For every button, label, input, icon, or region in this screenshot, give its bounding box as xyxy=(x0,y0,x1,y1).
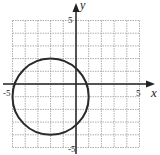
y-min-tick-label: -5 xyxy=(68,144,76,154)
x-min-tick-label: -5 xyxy=(3,88,11,98)
y-max-tick-label: 5 xyxy=(68,15,73,25)
x-max-tick-label: 5 xyxy=(136,88,141,98)
coordinate-graph: x y 5 -5 5 -5 xyxy=(0,0,160,155)
x-axis-label: x xyxy=(150,85,157,100)
y-axis-arrow-icon xyxy=(73,3,80,12)
y-axis-label: y xyxy=(79,0,86,12)
axes xyxy=(3,3,155,154)
